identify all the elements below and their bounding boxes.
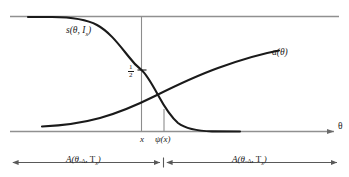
interval-label-left-mid: , T <box>85 154 95 164</box>
point-label-psi-x: ψ(x) <box>155 135 171 144</box>
interval-label-right-close: ) <box>264 154 267 164</box>
interval-label-left-main: A(θ <box>66 154 79 164</box>
interval-label-right-mid: , T <box>251 154 261 164</box>
tick-label-denominator: 2 <box>128 72 134 79</box>
curve-label-s: s(θ, Ix) <box>66 26 91 38</box>
sigmoid-curve-s <box>28 17 240 132</box>
curve-label-s-close: ) <box>88 25 91 35</box>
tick-label-one-half: 1 2 <box>128 64 134 80</box>
interval-label-left-close: ) <box>98 154 101 164</box>
interval-label-right-main: A(θ <box>232 154 245 164</box>
curve-label-a: a(θ) <box>272 48 288 58</box>
point-label-x: x <box>140 135 144 144</box>
axis-label-theta: θ <box>338 122 343 132</box>
curve-label-s-main: s(θ, I <box>66 25 85 35</box>
figure-canvas <box>0 0 349 177</box>
interval-label-left: A(θ–Δ, Tx) <box>66 155 101 166</box>
figure-container: s(θ, Ix) a(θ) θ 1 2 x ψ(x) A(θ–Δ, Tx) A(… <box>0 0 349 177</box>
accumulation-curve-a <box>42 51 279 127</box>
interval-label-right: A(θ–Δ, Tx) <box>232 155 267 166</box>
